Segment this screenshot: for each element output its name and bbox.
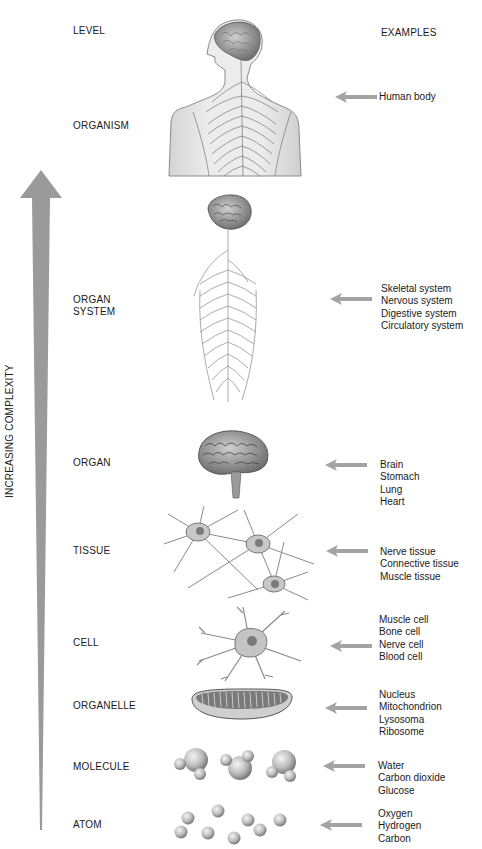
level-label-atom: ATOM	[73, 819, 102, 831]
pointer-arrow-icon	[330, 640, 372, 652]
level-label-molecule: MOLECULE	[73, 761, 130, 773]
nerve-tissue-icon	[158, 502, 318, 602]
examples-atom: Oxygen Hydrogen Carbon	[378, 808, 421, 845]
examples-organ: Brain Stomach Lung Heart	[380, 459, 419, 508]
level-label-organism: ORGANISM	[73, 120, 129, 132]
axis-label-container: INCREASING COMPLEXITY	[4, 498, 24, 518]
level-column-header: LEVEL	[73, 25, 105, 36]
examples-cell: Muscle cell Bone cell Nerve cell Blood c…	[379, 614, 428, 663]
level-label-tissue: TISSUE	[73, 545, 110, 557]
level-label-organ: ORGAN	[73, 457, 111, 469]
level-label-organ-system: ORGAN SYSTEM	[73, 294, 115, 318]
examples-organism: Human body	[379, 91, 436, 103]
examples-column-header: EXAMPLES	[381, 27, 437, 38]
brain-spinal-cord-icon	[180, 190, 270, 415]
human-torso-nervous-system-icon	[163, 12, 305, 178]
mitochondrion-icon	[188, 685, 296, 721]
examples-molecule: Water Carbon dioxide Glucose	[378, 760, 445, 797]
pointer-arrow-icon	[323, 760, 365, 772]
examples-tissue: Nerve tissue Connective tissue Muscle ti…	[380, 546, 459, 583]
pointer-arrow-icon	[335, 91, 377, 103]
examples-organ-system: Skeletal system Nervous system Digestive…	[381, 283, 463, 332]
examples-organelle: Nucleus Mitochondrion Lysosoma Ribosome	[379, 689, 442, 738]
neuron-icon	[195, 603, 305, 683]
pointer-arrow-icon	[330, 293, 372, 305]
pointer-arrow-icon	[325, 459, 367, 471]
atoms-icon	[170, 800, 290, 848]
increasing-complexity-label: INCREASING COMPLEXITY	[4, 364, 15, 498]
brain-icon	[195, 428, 275, 500]
pointer-arrow-icon	[325, 702, 367, 714]
water-molecules-icon	[166, 744, 302, 784]
level-label-organelle: ORGANELLE	[73, 700, 136, 712]
pointer-arrow-icon	[326, 545, 368, 557]
level-label-cell: CELL	[73, 637, 99, 649]
increasing-complexity-arrow-icon	[18, 168, 66, 834]
pointer-arrow-icon	[320, 819, 362, 831]
